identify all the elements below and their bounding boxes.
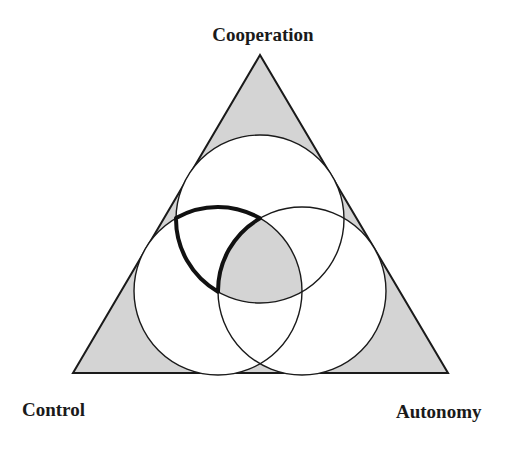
label-control: Control <box>22 400 85 419</box>
label-autonomy: Autonomy <box>396 402 482 421</box>
venn-triangle-diagram <box>0 0 526 450</box>
label-cooperation: Cooperation <box>0 25 526 44</box>
